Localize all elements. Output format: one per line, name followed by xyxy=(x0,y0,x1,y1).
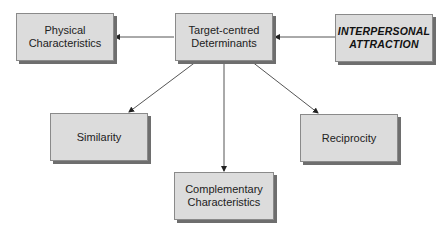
node-label: Reciprocity xyxy=(322,132,376,145)
node-similarity: Similarity xyxy=(50,113,148,161)
node-label: Physical Characteristics xyxy=(29,24,102,50)
node-label: Target-centred Determinants xyxy=(189,24,260,50)
node-label: Similarity xyxy=(77,131,122,144)
node-physical-characteristics: Physical Characteristics xyxy=(16,13,114,61)
edge-target-to-reciprocity xyxy=(251,61,318,113)
node-complementary-characteristics: Complementary Characteristics xyxy=(174,172,274,220)
node-label: INTERPERSONAL ATTRACTION xyxy=(338,25,430,51)
node-label: Complementary Characteristics xyxy=(185,183,263,209)
node-reciprocity: Reciprocity xyxy=(300,114,398,162)
node-interpersonal-attraction: INTERPERSONAL ATTRACTION xyxy=(335,14,433,62)
edge-target-to-similarity xyxy=(129,61,197,112)
node-target-centred-determinants: Target-centred Determinants xyxy=(175,13,273,61)
